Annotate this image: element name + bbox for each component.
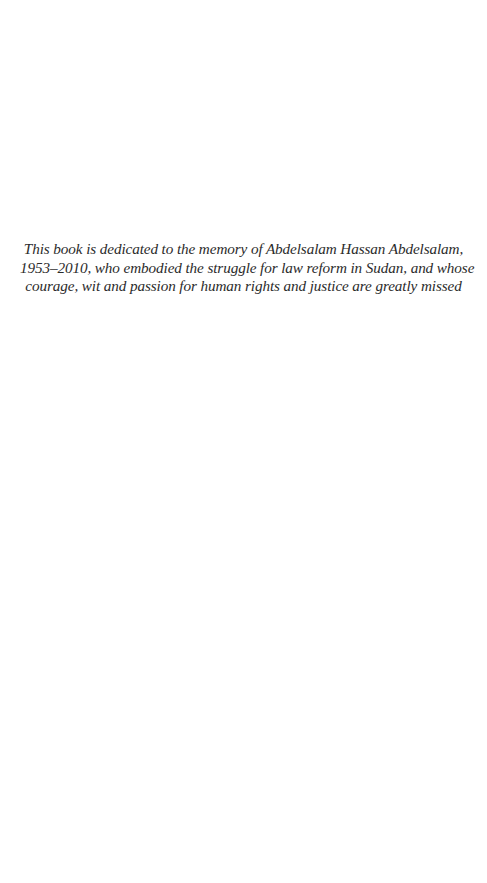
- dedication-line-2: 1953–2010, who embodied the struggle for…: [20, 259, 467, 278]
- dedication-line-1: This book is dedicated to the memory of …: [20, 240, 467, 259]
- dedication-line-3: courage, wit and passion for human right…: [20, 277, 467, 296]
- book-page: This book is dedicated to the memory of …: [0, 0, 487, 883]
- dedication-text: This book is dedicated to the memory of …: [20, 240, 467, 296]
